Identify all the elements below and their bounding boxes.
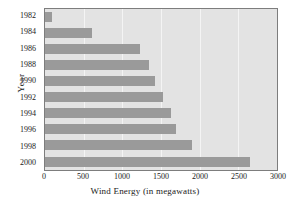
- bar-1998: [45, 140, 192, 150]
- y-tick-1986: 1986: [20, 45, 36, 53]
- bar-1988: [45, 60, 149, 70]
- x-axis-title: Wind Energy (in megawatts): [0, 186, 290, 196]
- x-tick-1500: 1500: [153, 173, 169, 181]
- bar-1986: [45, 44, 140, 54]
- bar-row: [45, 9, 277, 25]
- x-tick-2500: 2500: [231, 173, 247, 181]
- y-tick-2000: 2000: [20, 159, 36, 167]
- bar-1994: [45, 108, 171, 118]
- bar-row: [45, 57, 277, 73]
- bar-row: [45, 154, 277, 170]
- wind-energy-bar-chart: Year 19821984198619881990199219941996199…: [0, 0, 290, 203]
- bar-1982: [45, 12, 52, 22]
- x-axis-tick-labels: 050010001500200025003000: [44, 173, 278, 185]
- bar-row: [45, 106, 277, 122]
- y-tick-1998: 1998: [20, 143, 36, 151]
- x-tick-3000: 3000: [270, 173, 286, 181]
- y-tick-1992: 1992: [20, 94, 36, 102]
- y-tick-1984: 1984: [20, 28, 36, 36]
- y-tick-1988: 1988: [20, 61, 36, 69]
- bar-row: [45, 73, 277, 89]
- bar-1984: [45, 28, 92, 38]
- x-tick-1000: 1000: [114, 173, 130, 181]
- bar-row: [45, 122, 277, 138]
- bar-2000: [45, 157, 250, 167]
- x-tick-500: 500: [77, 173, 89, 181]
- bar-row: [45, 25, 277, 41]
- bar-row: [45, 89, 277, 105]
- y-axis-tick-labels: 1982198419861988199019921994199619982000: [0, 8, 40, 171]
- y-tick-1996: 1996: [20, 126, 36, 134]
- x-tick-2000: 2000: [192, 173, 208, 181]
- y-tick-1982: 1982: [20, 12, 36, 20]
- plot-area: [44, 8, 278, 171]
- bar-row: [45, 138, 277, 154]
- bar-1996: [45, 124, 176, 134]
- y-tick-1990: 1990: [20, 77, 36, 85]
- bar-1992: [45, 92, 163, 102]
- bar-series: [45, 9, 277, 170]
- x-tick-0: 0: [42, 173, 46, 181]
- bar-1990: [45, 76, 155, 86]
- bar-row: [45, 41, 277, 57]
- y-tick-1994: 1994: [20, 110, 36, 118]
